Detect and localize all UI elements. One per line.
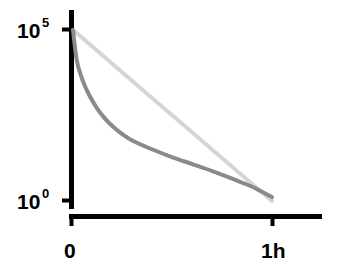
y-axis-label-bottom-base: 10 [17, 190, 40, 213]
chart-figure: 10 5 10 0 0 1h [0, 0, 342, 266]
y-axis-label-top-base: 10 [17, 19, 40, 42]
y-axis-label-top-exponent: 5 [42, 15, 49, 30]
plot-background [0, 0, 342, 266]
semilog-decay-plot: 10 5 10 0 0 1h [0, 0, 342, 266]
y-axis-label-bottom-exponent: 0 [42, 186, 49, 201]
x-axis-label-one-hour: 1h [261, 239, 286, 262]
x-axis-label-zero: 0 [64, 239, 76, 262]
